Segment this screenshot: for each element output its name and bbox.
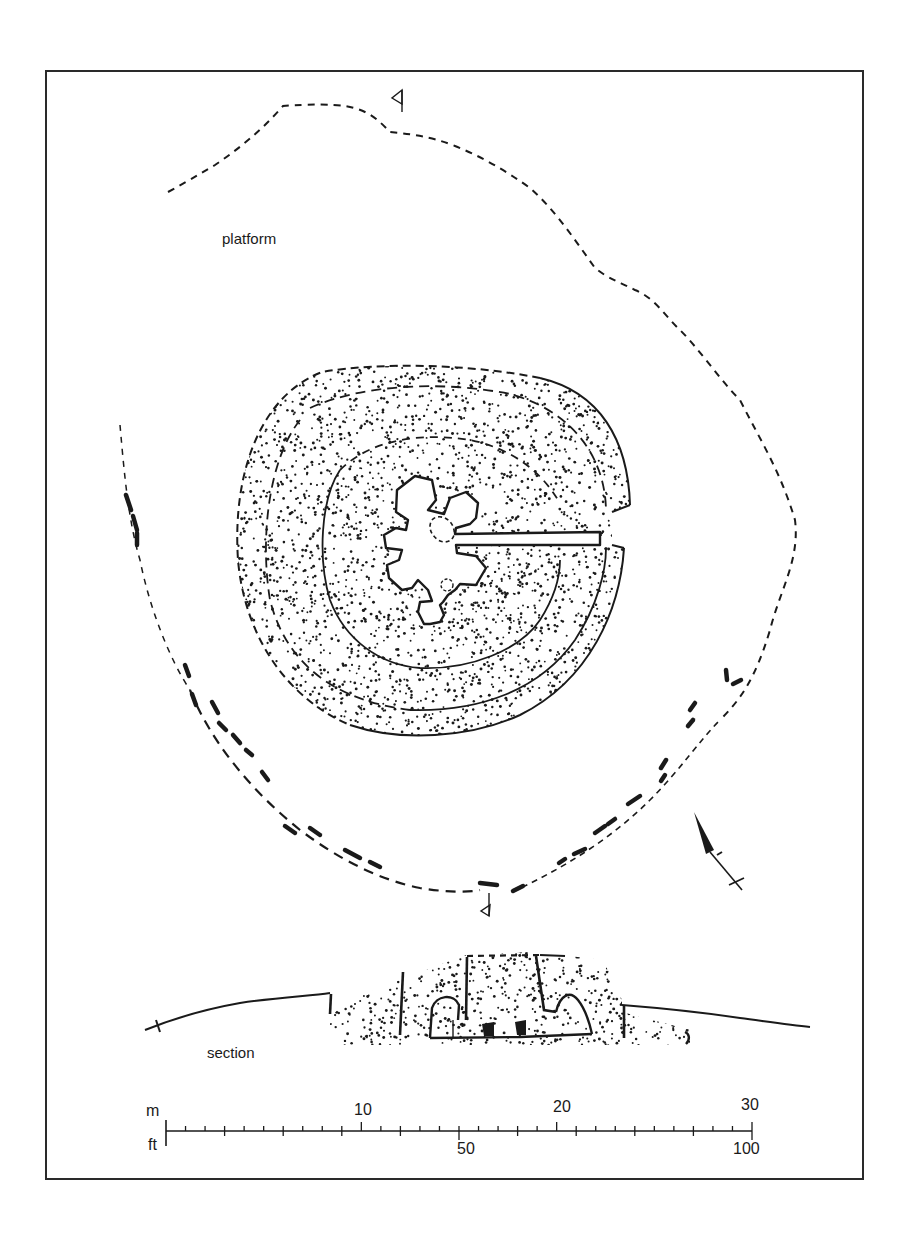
scale-tick-10m: 10 <box>354 1101 372 1119</box>
site-plan-drawing <box>0 0 906 1247</box>
scale-tick-30m: 30 <box>741 1096 759 1114</box>
scale-tick-50ft: 50 <box>457 1140 475 1158</box>
section-profile <box>145 955 810 1044</box>
scale-tick-20m: 20 <box>553 1098 571 1116</box>
scale-unit-metric: m <box>146 1102 159 1120</box>
platform-label: platform <box>222 230 276 247</box>
north-arrow-icon <box>694 812 744 890</box>
section-label: section <box>207 1044 255 1061</box>
scale-unit-imperial: ft <box>148 1136 157 1154</box>
scale-tick-100ft: 100 <box>733 1140 760 1158</box>
passage-chamber <box>384 476 600 624</box>
section-stipple <box>327 949 693 1047</box>
